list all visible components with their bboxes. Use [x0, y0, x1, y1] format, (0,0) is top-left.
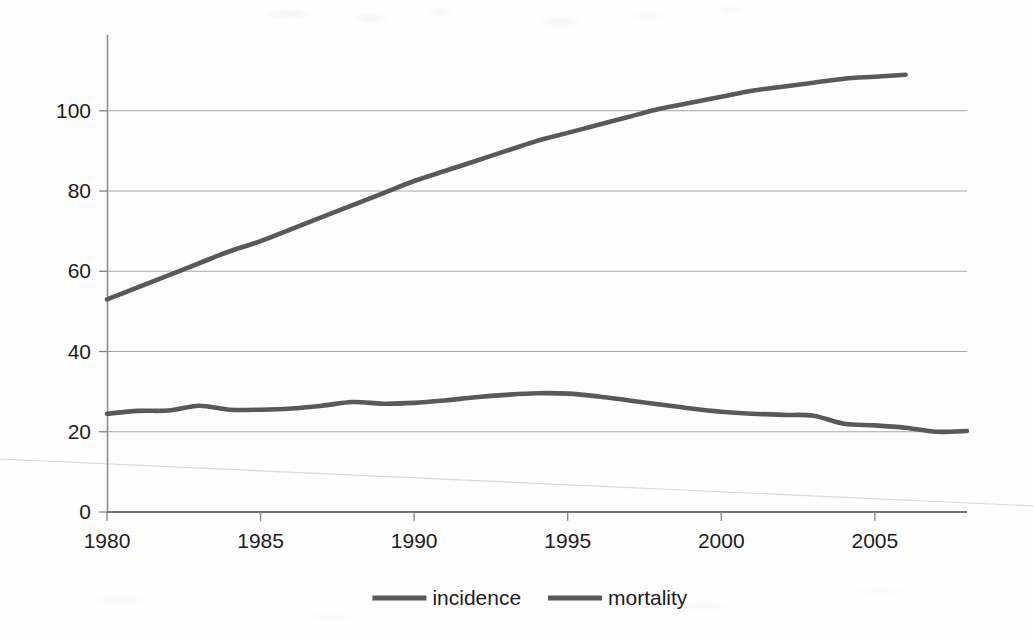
y-axis-tick-label: 40 — [68, 340, 91, 363]
data-series-group — [107, 75, 967, 432]
x-axis-tick-label: 2005 — [851, 529, 898, 552]
series-line-mortality — [107, 393, 967, 432]
y-axis-tick-label: 100 — [56, 99, 91, 122]
scan-artifact-diagonal-line — [0, 459, 1034, 506]
chart-legend: incidencemortality — [372, 586, 687, 609]
gridlines — [107, 111, 967, 432]
x-axis-tick-label: 1980 — [84, 529, 131, 552]
x-axis-ticks — [107, 512, 875, 521]
y-axis-tick-label: 60 — [68, 259, 91, 282]
line-chart: 020406080100 198019851990199520002005 in… — [0, 0, 1034, 642]
x-axis-tick-label: 2000 — [698, 529, 745, 552]
y-axis-tick-label: 0 — [79, 500, 91, 523]
series-line-incidence — [107, 75, 906, 300]
x-axis-tick-label: 1990 — [391, 529, 438, 552]
legend-label-mortality: mortality — [608, 586, 688, 609]
y-axis-tick-labels: 020406080100 — [56, 99, 91, 523]
x-axis-tick-labels: 198019851990199520002005 — [84, 529, 899, 552]
legend-label-incidence: incidence — [432, 586, 521, 609]
chart-page: 020406080100 198019851990199520002005 in… — [0, 0, 1034, 642]
x-axis-tick-label: 1985 — [237, 529, 284, 552]
y-axis-tick-label: 80 — [68, 179, 91, 202]
y-axis-ticks — [99, 111, 107, 512]
x-axis-tick-label: 1995 — [544, 529, 591, 552]
y-axis-tick-label: 20 — [68, 420, 91, 443]
